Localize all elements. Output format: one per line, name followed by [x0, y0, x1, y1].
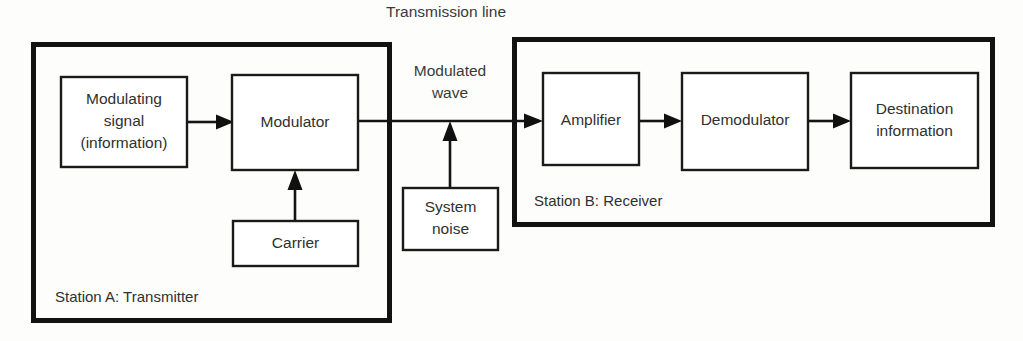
block-system-noise[interactable]: System noise [403, 188, 498, 250]
destination-information-label-line2: information [876, 122, 953, 139]
carrier-to-modulator-arrowhead [288, 170, 303, 190]
modulated-wave-label-line1: Modulated [414, 62, 486, 79]
amplifier-label: Amplifier [561, 111, 621, 128]
station-a-caption: Station A: Transmitter [55, 288, 198, 305]
destination-information-label-line1: Destination [876, 100, 954, 117]
block-modulating-signal[interactable]: Modulating signal (information) [61, 77, 187, 167]
block-demodulator[interactable]: Demodulator [682, 73, 808, 170]
demodulator-to-destination-arrowhead [833, 114, 851, 129]
transmission-line-arrowhead [524, 114, 543, 129]
modulating-signal-label-line1: Modulating [86, 90, 162, 107]
carrier-label: Carrier [272, 234, 319, 251]
block-carrier[interactable]: Carrier [233, 221, 358, 266]
system-noise-label-line1: System [425, 198, 477, 215]
modulated-wave-label-line2: wave [431, 84, 468, 101]
block-destination-information[interactable]: Destination information [851, 73, 978, 168]
system-noise-label-line2: noise [432, 220, 469, 237]
modulating-signal-label-line3: (information) [81, 134, 168, 151]
noise-to-transmission-arrowhead [443, 121, 458, 141]
block-diagram-figure: Modulating signal (information) Modulato… [0, 0, 1023, 341]
diagram-canvas: Modulating signal (information) Modulato… [0, 0, 1023, 341]
demodulator-label: Demodulator [701, 111, 790, 128]
station-b-caption: Station B: Receiver [534, 192, 662, 209]
modulator-label: Modulator [261, 113, 330, 130]
modulating-signal-label-line2: signal [104, 112, 145, 129]
block-modulator[interactable]: Modulator [232, 75, 358, 170]
amplifier-to-demodulator-arrowhead [664, 114, 682, 129]
transmission-line-label: Transmission line [386, 3, 506, 20]
block-amplifier[interactable]: Amplifier [543, 73, 639, 165]
destination-information-box [851, 73, 978, 168]
